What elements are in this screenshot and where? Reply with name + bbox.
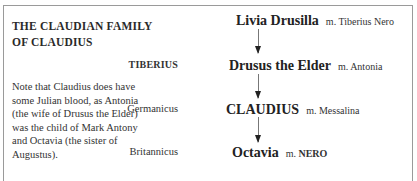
person-name: Livia Drusilla (236, 13, 319, 28)
marriage-prefix: m. (338, 61, 348, 72)
spouse-name: Antonia (350, 61, 382, 72)
person-name: Octavia (232, 145, 279, 160)
descent-arrow-1 (258, 29, 259, 53)
person-claudius: CLAUDIUS m. Messalina (226, 100, 359, 118)
sibling-label-tiberius: TIBERIUS (88, 59, 178, 70)
person-name: CLAUDIUS (226, 102, 299, 117)
person-livia-drusilla: Livia Drusilla m. Tiberius Nero (236, 11, 394, 29)
descent-arrow-2 (258, 74, 259, 98)
marriage-prefix: m. (306, 105, 316, 116)
spouse-name: Messalina (319, 105, 360, 116)
marriage-prefix: m. (326, 16, 336, 27)
spouse-label: m. Tiberius Nero (326, 16, 394, 27)
person-name: Drusus the Elder (229, 58, 331, 73)
sibling-label-britannicus: Britannicus (88, 146, 178, 157)
spouse-label: m. Antonia (338, 61, 382, 72)
spouse-name: NERO (298, 148, 327, 159)
spouse-name: Tiberius Nero (338, 16, 393, 27)
person-drusus-the-elder: Drusus the Elder m. Antonia (229, 56, 382, 74)
box-title: THE CLAUDIAN FAMILY OF CLAUDIUS (12, 18, 162, 50)
descent-arrow-3 (258, 117, 259, 142)
spouse-label: m. NERO (286, 148, 328, 159)
spouse-label: m. Messalina (306, 105, 359, 116)
person-octavia: Octavia m. NERO (232, 143, 327, 161)
sibling-label-germanicus: Germanicus (88, 103, 178, 114)
marriage-prefix: m. (286, 148, 296, 159)
